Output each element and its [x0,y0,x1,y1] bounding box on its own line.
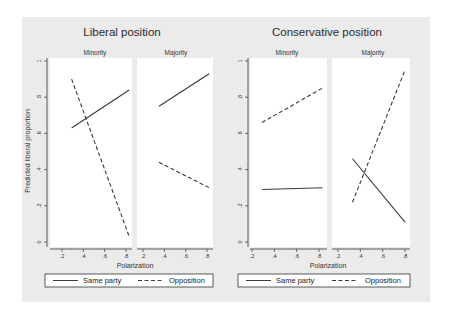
plot-area-minority [50,58,132,247]
legend-entry-same-party: Same party [83,276,122,285]
y-tick-label: .2 [36,204,42,209]
x-tick-label: .4 [358,253,363,259]
x-tick-label: .8 [317,253,322,259]
x-tick-label: .8 [205,253,210,259]
x-tick-label: .6 [102,253,107,259]
legend: Same party Opposition [45,274,213,287]
x-tick-label: .4 [162,253,167,259]
x-tick-label: .6 [183,253,188,259]
y-tick-label: .6 [36,131,42,136]
legend-entry-same-party: Same party [276,276,315,285]
y-tick-label: 0 [237,240,243,243]
panel-label-majority: Majority [165,49,189,57]
x-tick-label: .2 [250,253,255,259]
y-axis-label: Predicted liberal proportion [24,109,32,193]
x-axis-label: Polarization [117,262,154,269]
plot-area-majority [137,58,213,247]
y-tick-label: .2 [237,204,243,209]
x-tick-label: .6 [294,253,299,259]
x-tick-label: .2 [60,253,65,259]
figure: Liberal position Predicted liberal propo… [0,0,451,318]
y-tick-label: .8 [36,95,42,100]
x-axis-label: Polarization [310,262,347,269]
legend-entry-opposition: Opposition [365,276,401,285]
panel-label-minority: Minority [84,49,108,57]
x-tick-label: .6 [380,253,385,259]
x-tick-label: .8 [124,253,129,259]
axes-group: 0.2.4.6.81.2.4.6.8.2.4.6.8 [36,58,213,259]
y-tick-label: 0 [36,240,42,243]
y-tick-label: .4 [36,167,42,172]
x-tick-label: .2 [141,253,146,259]
y-tick-label: 1 [36,59,42,62]
x-tick-label: .4 [272,253,277,259]
x-tick-label: .2 [336,253,341,259]
chart-title: Conservative position [272,26,382,38]
x-tick-label: .8 [403,253,408,259]
legend: Same party Opposition [238,274,410,287]
panel-label-majority: Majority [362,49,386,57]
y-tick-label: 1 [237,59,243,62]
y-tick-label: .4 [237,167,243,172]
panel-label-minority: Minority [276,49,300,57]
legend-entry-opposition: Opposition [169,276,205,285]
y-tick-label: .6 [237,131,243,136]
chart-title: Liberal position [83,26,160,38]
y-tick-label: .8 [237,95,243,100]
axes-group: 0.2.4.6.81.2.4.6.8.2.4.6.8 [237,58,410,259]
x-tick-label: .4 [81,253,86,259]
plot-area-minority [250,58,327,247]
